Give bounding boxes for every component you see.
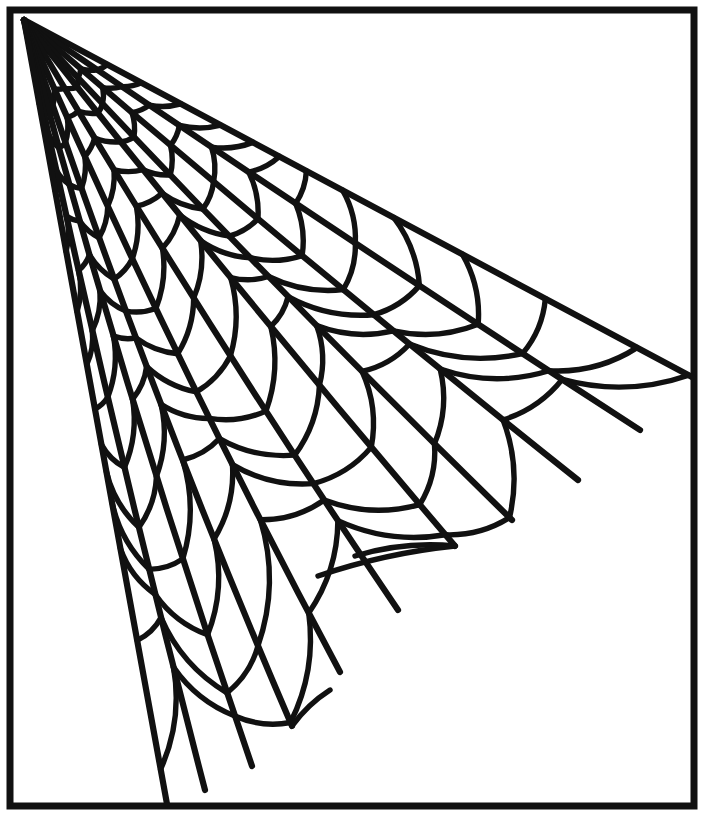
drawing-canvas: Spider Web Line Drawing Black-and-white …	[0, 0, 710, 818]
spider-web-illustration	[0, 0, 710, 818]
